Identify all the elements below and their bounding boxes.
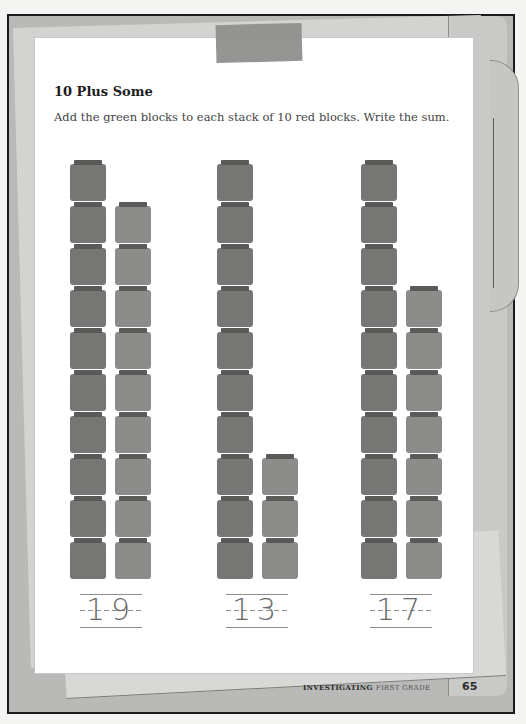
block-connector [365,370,393,375]
block-connector [410,412,438,417]
worksheet-title: 10 Plus Some [54,84,153,99]
block-connector [74,454,102,459]
block-connector [221,496,249,501]
red-block [70,416,106,453]
block-connector [266,454,294,459]
red-block [361,416,397,453]
page-number: 65 [462,680,477,693]
block-connector [221,454,249,459]
block-connector [266,496,294,501]
red-block [217,206,253,243]
red-block [70,458,106,495]
green-block [262,458,298,495]
green-block [115,542,151,579]
red-block [70,248,106,285]
block-connector [74,286,102,291]
green-block [406,542,442,579]
red-block [217,500,253,537]
answer-lines[interactable]: 17 [370,594,432,628]
red-block [217,416,253,453]
block-connector [119,412,147,417]
green-block [406,290,442,327]
block-connector [74,328,102,333]
block-connector [410,328,438,333]
red-block [70,164,106,201]
red-block [217,248,253,285]
tape-strip [216,23,303,63]
block-connector [74,160,102,165]
block-connector [365,286,393,291]
answer-lines[interactable]: 19 [80,594,142,628]
red-block [361,542,397,579]
red-block [361,248,397,285]
block-connector [365,496,393,501]
footer-brand: INVESTIGATINGFIRST GRADE [303,683,430,692]
block-connector [410,454,438,459]
green-block [115,500,151,537]
block-connector [266,538,294,543]
worksheet-instructions: Add the green blocks to each stack of 10… [54,110,464,125]
red-block [217,332,253,369]
block-connector [365,160,393,165]
block-connector [221,244,249,249]
red-block [217,164,253,201]
red-block [361,374,397,411]
red-block [361,164,397,201]
block-connector [410,286,438,291]
block-connector [221,286,249,291]
block-connector [74,370,102,375]
block-connector [74,202,102,207]
green-block [406,416,442,453]
block-connector [221,538,249,543]
green-block [115,374,151,411]
green-block [115,458,151,495]
red-block [217,542,253,579]
green-block [115,332,151,369]
green-block [115,206,151,243]
red-block [361,500,397,537]
green-block [262,500,298,537]
sum-answer: 13 [226,592,288,628]
green-block [406,500,442,537]
block-connector [119,370,147,375]
block-connector [365,538,393,543]
block-connector [365,244,393,249]
green-block [406,374,442,411]
red-block [361,290,397,327]
green-block [406,332,442,369]
red-block [361,458,397,495]
sum-answer: 17 [370,592,432,628]
red-block [70,290,106,327]
block-connector [221,202,249,207]
red-block [70,206,106,243]
block-connector [410,538,438,543]
block-connector [410,496,438,501]
answer-lines[interactable]: 13 [226,594,288,628]
red-block [70,500,106,537]
name-tab [490,60,519,312]
block-connector [119,454,147,459]
green-block [115,416,151,453]
block-connector [74,496,102,501]
grade-label: FIRST GRADE [376,684,431,692]
block-connector [365,328,393,333]
red-block [70,332,106,369]
green-block [406,458,442,495]
red-block [217,290,253,327]
red-block [361,206,397,243]
brand-name: INVESTIGATING [303,683,373,692]
green-block [115,248,151,285]
green-block [115,290,151,327]
block-connector [365,454,393,459]
red-block [361,332,397,369]
red-block [217,458,253,495]
red-block [70,542,106,579]
block-connector [221,412,249,417]
red-block [217,374,253,411]
sum-answer: 19 [80,592,142,628]
block-connector [74,538,102,543]
block-connector [119,244,147,249]
block-connector [119,202,147,207]
block-connector [221,328,249,333]
block-connector [119,538,147,543]
